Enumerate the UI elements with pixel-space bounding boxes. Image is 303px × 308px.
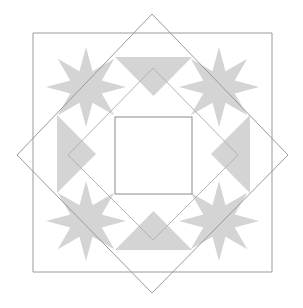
star-top-right xyxy=(179,47,259,127)
star-bottom-left xyxy=(46,181,126,261)
star-top-left xyxy=(46,47,126,127)
quilt-pattern-figure xyxy=(0,0,303,308)
center-square xyxy=(115,117,192,194)
pattern-canvas xyxy=(0,0,303,308)
